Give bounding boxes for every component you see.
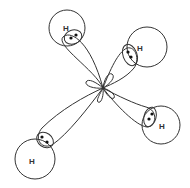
orbital-lobe-bottom-right xyxy=(103,88,155,127)
orbital-lobe-right xyxy=(103,48,137,88)
electron-dot xyxy=(45,140,48,143)
electron-dot xyxy=(40,135,43,138)
hydrogen-label-bottom-right: H xyxy=(159,122,165,131)
hydrogen-label-top: H xyxy=(63,24,69,33)
electron-dot xyxy=(69,36,72,39)
electron-dot xyxy=(129,55,132,58)
electron-dot xyxy=(74,33,77,36)
overlap-region-bottom-left xyxy=(34,129,57,151)
electron-dot xyxy=(147,117,150,120)
electron-dot xyxy=(126,50,129,53)
orbital-lobe-top xyxy=(62,35,103,88)
hydrogen-atom-bottom-left xyxy=(15,139,55,179)
orbital-lobe-bottom-left xyxy=(38,88,103,146)
hydrogen-label-bottom-left: H xyxy=(29,157,35,166)
electron-dot xyxy=(150,112,153,115)
sp3-orbital-diagram: H H H H xyxy=(0,0,190,188)
hydrogen-label-right: H xyxy=(137,44,143,53)
